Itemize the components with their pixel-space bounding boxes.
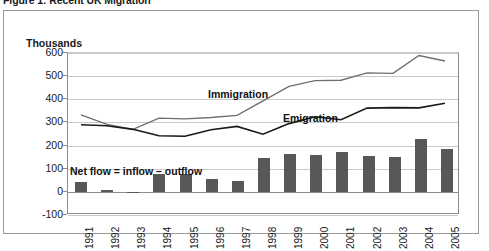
figure-caption: Figure 1: Recent UK Migration [3,0,403,6]
x-tick-label-1992: 1992 [110,213,121,249]
x-tick-label-1999: 1999 [293,213,304,249]
x-tick-label-1996: 1996 [215,213,226,249]
x-tick-label-2004: 2004 [424,213,435,249]
y-tick-label-100: 100 [29,162,63,174]
x-axis-tick-labels: 1991199219931994199519961997199819992000… [67,215,459,251]
x-tick-label-1995: 1995 [189,213,200,249]
y-tick-label--100: -100 [29,208,63,220]
x-tick-label-1993: 1993 [136,213,147,249]
x-tick-label-2002: 2002 [372,213,383,249]
y-tick-label-200: 200 [29,139,63,151]
x-tick-label-2005: 2005 [450,213,461,249]
immigration-annotation: Immigration [208,88,268,100]
x-tick-label-1998: 1998 [267,213,278,249]
net-flow-annotation: Net flow = inflow – outflow [70,165,202,177]
y-axis-tick-labels: 6005004003002001000-100 [26,52,63,214]
x-tick-label-1994: 1994 [162,213,173,249]
y-tick-label-300: 300 [29,115,63,127]
y-tick-label-400: 400 [29,92,63,104]
x-tick-label-2003: 2003 [398,213,409,249]
y-tick-label-0: 0 [29,185,63,197]
y-tick-label-600: 600 [29,46,63,58]
y-tick-label-500: 500 [29,69,63,81]
x-tick-label-2000: 2000 [319,213,330,249]
chart-frame: Thousands 6005004003002001000-100 Immigr… [3,10,479,234]
x-tick-label-1997: 1997 [241,213,252,249]
emigration-annotation: Emigration [283,112,338,124]
line-series-layer [68,53,458,213]
emigration-line [81,103,445,136]
x-tick-label-2001: 2001 [345,213,356,249]
plot-area: Immigration Emigration Net flow = inflow… [67,52,459,214]
x-tick-label-1991: 1991 [84,213,95,249]
